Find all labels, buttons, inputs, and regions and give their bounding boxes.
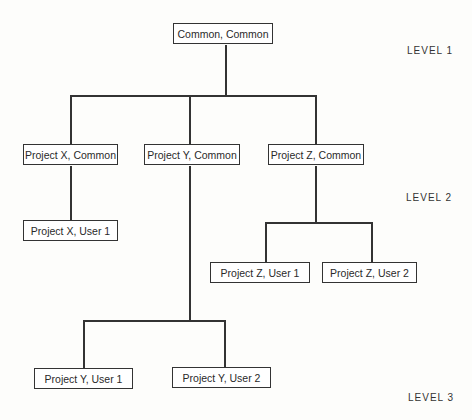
node-x-common: Project X, Common — [23, 144, 118, 165]
connector — [265, 222, 373, 224]
node-x-user1: Project X, User 1 — [23, 220, 118, 241]
node-y-user1: Project Y, User 1 — [34, 368, 133, 389]
connector — [315, 95, 317, 144]
level-1-label: LEVEL 1 — [407, 45, 453, 56]
connector — [265, 222, 267, 262]
connector — [225, 45, 227, 96]
node-y-common: Project Y, Common — [144, 144, 240, 165]
connector — [70, 95, 72, 144]
node-y-user2: Project Y, User 2 — [172, 367, 271, 388]
node-root: Common, Common — [173, 23, 273, 44]
connector — [224, 320, 226, 368]
connector — [371, 222, 373, 262]
connector — [83, 320, 85, 368]
connector — [315, 166, 317, 223]
connector — [70, 95, 316, 97]
connector — [83, 320, 226, 322]
connector — [189, 95, 191, 144]
connector — [70, 166, 72, 220]
node-z-common: Project Z, Common — [268, 144, 364, 165]
node-z-user2: Project Z, User 2 — [322, 262, 417, 283]
connector — [189, 166, 191, 321]
node-z-user1: Project Z, User 1 — [210, 262, 310, 283]
level-2-label: LEVEL 2 — [406, 192, 452, 203]
level-3-label: LEVEL 3 — [408, 392, 454, 403]
